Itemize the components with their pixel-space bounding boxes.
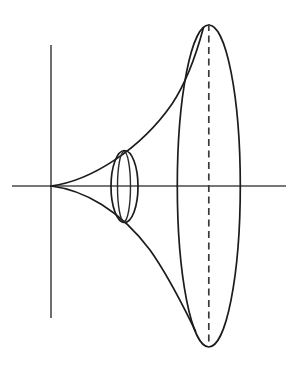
geometric-diagram-svg [0, 0, 302, 383]
figure-background [0, 0, 302, 383]
figure-root [0, 0, 302, 383]
